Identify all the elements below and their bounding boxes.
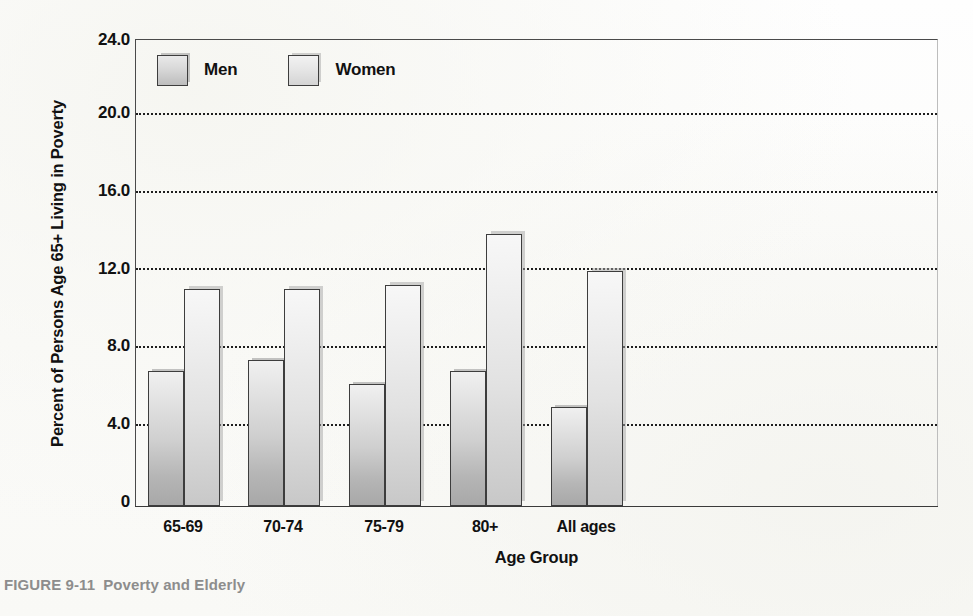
bar-men-all-ages bbox=[551, 407, 587, 506]
y-tick-label: 0 bbox=[34, 492, 130, 512]
bar-women-75-79 bbox=[385, 285, 421, 506]
bar-women-65-69 bbox=[184, 289, 220, 506]
plot-area bbox=[135, 39, 938, 506]
men-swatch-icon bbox=[157, 55, 188, 86]
y-axis-tick-labels: 24.0 20.0 16.0 12.0 8.0 4.0 0 bbox=[30, 0, 130, 616]
x-tick-label-75-79: 75-79 bbox=[364, 518, 403, 536]
bar-men-75-79 bbox=[349, 384, 385, 506]
figure-caption: FIGURE 9-11Poverty and Elderly bbox=[4, 576, 245, 593]
bar-women-70-74 bbox=[284, 289, 320, 506]
gridline-8 bbox=[136, 346, 937, 348]
y-tick-label: 24.0 bbox=[34, 30, 130, 50]
legend: Men Women bbox=[157, 52, 419, 88]
x-tick-label-65-69: 65-69 bbox=[163, 518, 202, 536]
legend-item-women: Women bbox=[288, 55, 395, 86]
bar-women-80plus bbox=[486, 234, 522, 506]
legend-label-men: Men bbox=[204, 60, 237, 80]
x-tick-label-70-74: 70-74 bbox=[263, 518, 302, 536]
gridline-20 bbox=[136, 113, 937, 115]
y-tick-label: 12.0 bbox=[34, 259, 130, 279]
bar-men-80plus bbox=[450, 371, 486, 506]
y-tick-label: 8.0 bbox=[34, 336, 130, 356]
x-tick-label-80plus: 80+ bbox=[472, 518, 498, 536]
bar-men-65-69 bbox=[148, 371, 184, 506]
plot-inner bbox=[136, 40, 937, 506]
bar-women-all-ages bbox=[587, 271, 623, 506]
gridline-16 bbox=[136, 191, 937, 193]
figure-container: Percent of Persons Age 65+ Living in Pov… bbox=[0, 0, 973, 616]
y-tick-label: 16.0 bbox=[34, 181, 130, 201]
figure-caption-number: FIGURE 9-11 bbox=[4, 576, 95, 593]
x-tick-label-all-ages: All ages bbox=[557, 518, 616, 536]
gridline-12 bbox=[136, 268, 937, 270]
x-axis-title: Age Group bbox=[135, 548, 938, 567]
x-axis-line bbox=[135, 506, 938, 507]
legend-item-men: Men bbox=[157, 55, 237, 86]
bar-men-70-74 bbox=[248, 360, 284, 506]
figure-caption-title: Poverty and Elderly bbox=[103, 576, 245, 593]
y-tick-label: 4.0 bbox=[34, 414, 130, 434]
caption-divider bbox=[0, 563, 973, 564]
legend-label-women: Women bbox=[335, 60, 395, 80]
women-swatch-icon bbox=[288, 55, 319, 86]
y-tick-label: 20.0 bbox=[34, 103, 130, 123]
